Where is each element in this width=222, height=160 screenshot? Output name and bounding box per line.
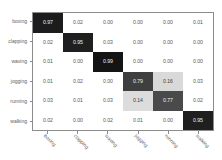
x-axis-tick-col: walking bbox=[184, 134, 214, 160]
matrix-cell: 0.01 bbox=[33, 52, 63, 72]
y-axis-tick-label-clapping: clapping bbox=[8, 39, 27, 44]
matrix-cell: 0.02 bbox=[93, 111, 123, 131]
x-axis-tick-label-boxing: boxing bbox=[43, 133, 57, 147]
x-axis-tick-label-clapping: clapping bbox=[73, 133, 90, 150]
matrix-cell-value: 0.95 bbox=[73, 40, 83, 45]
x-axis-tick-col: running bbox=[153, 134, 183, 160]
matrix-cell: 0.01 bbox=[183, 13, 213, 33]
matrix-cell: 0.99 bbox=[93, 52, 123, 72]
matrix-cell: 0.79 bbox=[123, 72, 153, 92]
matrix-cell-value: 0.14 bbox=[133, 98, 143, 103]
matrix-cell-value: 0.16 bbox=[163, 79, 173, 84]
matrix-cell-value: 0.01 bbox=[43, 79, 53, 84]
matrix-cell-value: 0.00 bbox=[163, 20, 173, 25]
matrix-cell-value: 0.02 bbox=[43, 118, 53, 123]
matrix-cell: 0.77 bbox=[153, 91, 183, 111]
matrix-cell-value: 0.00 bbox=[193, 59, 203, 64]
matrix-cell-value: 0.03 bbox=[43, 98, 53, 103]
y-axis-tick-label-running: running bbox=[10, 99, 27, 104]
confusion-matrix-grid: 0.970.020.000.000.000.010.020.950.030.00… bbox=[33, 13, 213, 130]
matrix-cell-value: 0.02 bbox=[73, 79, 83, 84]
x-axis-tick-col: jogging bbox=[123, 134, 153, 160]
y-axis-tick-row: running bbox=[0, 91, 30, 111]
y-axis-tick-label-jogging: jogging bbox=[11, 79, 27, 84]
matrix-cell-value: 0.95 bbox=[193, 118, 203, 123]
x-axis-tick-col: waving bbox=[93, 134, 123, 160]
matrix-cell-value: 0.02 bbox=[43, 40, 53, 45]
matrix-cell-value: 0.97 bbox=[43, 20, 53, 25]
matrix-cell-value: 0.00 bbox=[133, 20, 143, 25]
matrix-cell: 0.00 bbox=[93, 13, 123, 33]
y-axis-tick-label-boxing: boxing bbox=[12, 19, 27, 24]
matrix-cell: 0.00 bbox=[123, 33, 153, 53]
matrix-cell: 0.01 bbox=[63, 91, 93, 111]
x-axis-tick-label-walking: walking bbox=[195, 133, 210, 148]
matrix-cell-value: 0.00 bbox=[163, 59, 173, 64]
matrix-cell: 0.03 bbox=[33, 91, 63, 111]
matrix-cell: 0.01 bbox=[123, 111, 153, 131]
matrix-cell: 0.00 bbox=[93, 72, 123, 92]
matrix-cell-value: 0.01 bbox=[193, 20, 203, 25]
matrix-cell: 0.00 bbox=[153, 52, 183, 72]
matrix-cell-value: 0.03 bbox=[103, 40, 113, 45]
matrix-cell-value: 0.00 bbox=[133, 40, 143, 45]
matrix-cell-value: 0.02 bbox=[193, 98, 203, 103]
matrix-cell: 0.00 bbox=[123, 52, 153, 72]
plot-area: 0.970.020.000.000.000.010.020.950.030.00… bbox=[32, 12, 214, 131]
x-axis-label-group: boxing clapping waving jogging running w… bbox=[32, 134, 214, 160]
x-axis-tick-label-jogging: jogging bbox=[134, 133, 149, 148]
matrix-cell-value: 0.77 bbox=[163, 98, 173, 103]
matrix-cell: 0.02 bbox=[183, 91, 213, 111]
matrix-cell: 0.00 bbox=[183, 52, 213, 72]
y-axis-label-group: boxing clapping waving jogging running w… bbox=[0, 12, 30, 131]
matrix-cell-value: 0.00 bbox=[103, 20, 113, 25]
y-axis-tick-row: jogging bbox=[0, 72, 30, 92]
matrix-cell: 0.95 bbox=[63, 33, 93, 53]
x-axis-tick-label-running: running bbox=[164, 133, 179, 148]
matrix-cell: 0.00 bbox=[153, 33, 183, 53]
matrix-cell-value: 0.01 bbox=[43, 59, 53, 64]
matrix-cell: 0.01 bbox=[33, 72, 63, 92]
y-axis-tick-row: waving bbox=[0, 52, 30, 72]
matrix-cell-value: 0.00 bbox=[163, 118, 173, 123]
matrix-cell: 0.00 bbox=[63, 111, 93, 131]
matrix-cell-value: 0.01 bbox=[133, 118, 143, 123]
matrix-cell-value: 0.00 bbox=[163, 40, 173, 45]
matrix-cell: 0.03 bbox=[183, 72, 213, 92]
matrix-cell: 0.95 bbox=[183, 111, 213, 131]
matrix-cell: 0.00 bbox=[63, 52, 93, 72]
y-axis-tick-label-walking: walking bbox=[10, 119, 27, 124]
matrix-cell-value: 0.00 bbox=[193, 40, 203, 45]
matrix-cell-value: 0.03 bbox=[103, 98, 113, 103]
matrix-cell: 0.02 bbox=[33, 33, 63, 53]
matrix-cell: 0.02 bbox=[63, 13, 93, 33]
x-axis-tick-col: boxing bbox=[32, 134, 62, 160]
matrix-cell: 0.00 bbox=[153, 13, 183, 33]
matrix-cell: 0.14 bbox=[123, 91, 153, 111]
matrix-cell: 0.16 bbox=[153, 72, 183, 92]
matrix-cell-value: 0.03 bbox=[193, 79, 203, 84]
x-axis-tick-label-waving: waving bbox=[104, 133, 119, 148]
matrix-cell: 0.02 bbox=[33, 111, 63, 131]
confusion-matrix-figure: boxing clapping waving jogging running w… bbox=[0, 0, 222, 160]
matrix-cell-value: 0.01 bbox=[73, 98, 83, 103]
matrix-cell: 0.00 bbox=[153, 111, 183, 131]
matrix-cell: 0.03 bbox=[93, 33, 123, 53]
y-axis-tick-row: boxing bbox=[0, 12, 30, 32]
matrix-cell: 0.00 bbox=[183, 33, 213, 53]
matrix-cell-value: 0.00 bbox=[133, 59, 143, 64]
matrix-cell: 0.97 bbox=[33, 13, 63, 33]
matrix-cell-value: 0.00 bbox=[73, 118, 83, 123]
y-axis-tick-label-waving: waving bbox=[11, 59, 27, 64]
matrix-cell-value: 0.99 bbox=[103, 59, 113, 64]
matrix-cell-value: 0.02 bbox=[73, 20, 83, 25]
matrix-cell-value: 0.02 bbox=[103, 118, 113, 123]
matrix-cell: 0.02 bbox=[63, 72, 93, 92]
matrix-cell: 0.00 bbox=[123, 13, 153, 33]
matrix-cell: 0.03 bbox=[93, 91, 123, 111]
matrix-cell-value: 0.79 bbox=[133, 79, 143, 84]
y-axis-tick-row: walking bbox=[0, 111, 30, 131]
matrix-cell-value: 0.00 bbox=[103, 79, 113, 84]
matrix-cell-value: 0.00 bbox=[73, 59, 83, 64]
y-axis-tick-row: clapping bbox=[0, 32, 30, 52]
